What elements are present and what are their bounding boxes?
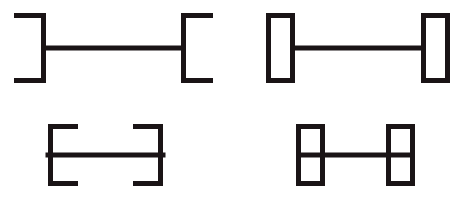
illusion-figure-svg — [0, 0, 465, 200]
canvas-background — [0, 0, 465, 200]
figure-canvas — [0, 0, 465, 200]
